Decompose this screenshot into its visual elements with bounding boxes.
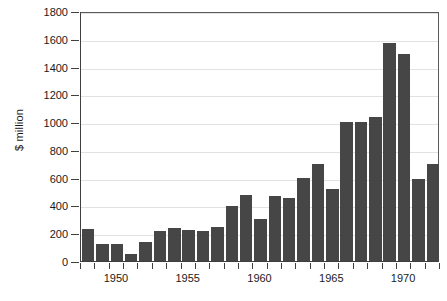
x-tick-label: 1960 [247,272,271,284]
bar [326,189,338,261]
x-tick-mark [338,263,339,269]
y-tick-label: 200 [50,228,68,240]
y-tick-mark [71,179,79,180]
x-tick-mark [209,263,210,269]
y-tick-mark [71,123,79,124]
x-tick-mark [94,263,95,269]
y-tick-label: 0 [62,256,68,268]
x-tick-label: 1965 [319,272,343,284]
x-tick-mark [195,263,196,269]
y-tick-label: 600 [50,173,68,185]
y-tick-mark [71,95,79,96]
bar [369,117,381,261]
bar [240,195,252,261]
x-tick-mark [224,263,225,269]
bar [283,198,295,261]
x-tick-label: 1950 [104,272,128,284]
y-tick-label: 1800 [44,6,68,18]
x-tick-mark [425,263,426,269]
bar [312,164,324,261]
x-tick-mark [80,263,81,269]
y-tick-mark [71,234,79,235]
x-tick-mark [310,263,311,269]
x-tick-mark [324,263,325,269]
bar [139,242,151,261]
y-tick-mark [71,262,79,263]
bar [427,164,439,261]
x-tick-mark [166,263,167,269]
y-tick-label: 1000 [44,117,68,129]
y-tick-mark [71,151,79,152]
x-tick-mark [439,263,440,269]
bar-series [81,13,438,261]
bar [254,219,266,261]
x-tick-mark [238,263,239,269]
x-tick-mark [353,263,354,269]
bar [154,231,166,261]
x-tick-mark [109,263,110,269]
bar [269,196,281,261]
bar [355,122,367,261]
x-tick-label: 1970 [391,272,415,284]
y-axis-label: $ million [13,75,25,185]
bar [125,254,137,261]
bar [182,230,194,261]
chart-figure: $ million 020040060080010001200140016001… [0,0,447,301]
y-tick-mark [71,68,79,69]
x-tick-mark [152,263,153,269]
y-tick-mark [71,206,79,207]
bar [226,206,238,261]
x-tick-label: 1955 [175,272,199,284]
bar [168,228,180,261]
bar [96,244,108,261]
x-tick-mark [410,263,411,269]
bar [211,227,223,261]
y-tick-label: 1600 [44,34,68,46]
x-tick-mark [137,263,138,269]
x-tick-mark [252,263,253,269]
y-tick-label: 1400 [44,62,68,74]
y-tick-mark [71,12,79,13]
y-tick-mark [71,40,79,41]
x-tick-mark [123,263,124,269]
bar [412,179,424,261]
x-tick-mark [396,263,397,269]
y-tick-label: 400 [50,200,68,212]
bar [82,229,94,261]
x-tick-mark [181,263,182,269]
bar [197,231,209,261]
x-tick-mark [295,263,296,269]
bar [398,54,410,261]
y-tick-label: 1200 [44,89,68,101]
bar [297,178,309,261]
bar [111,244,123,261]
bar [340,122,352,261]
x-tick-mark [367,263,368,269]
x-tick-mark [382,263,383,269]
x-tick-mark [267,263,268,269]
y-tick-label: 800 [50,145,68,157]
x-tick-mark [281,263,282,269]
bar [383,43,395,261]
plot-area [80,12,439,262]
